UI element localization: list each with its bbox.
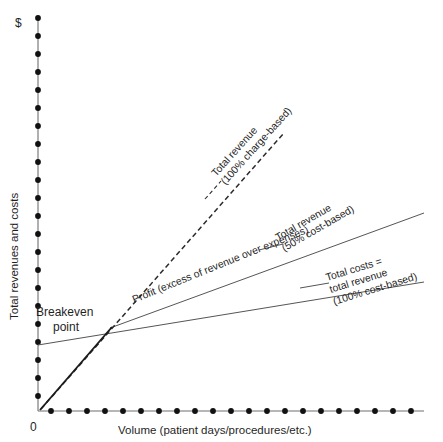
x-axis-title: Volume (patient days/procedures/etc.): [118, 424, 312, 436]
leader-line-charge-based: [205, 181, 221, 199]
series-label-total-revenue-50-cost-based: Total revenue (50% cost-based): [274, 192, 356, 253]
x-axis-tick-dots: [48, 408, 414, 414]
breakeven-chart: $ 0 Total revenues and costs Volume (pat…: [0, 0, 443, 442]
charge-based-label-line2: (100% charge-based): [219, 105, 294, 187]
breakeven-point-annotation: Breakeven point: [36, 305, 93, 334]
breakeven-label-line2: point: [53, 320, 80, 334]
y-axis: [35, 15, 41, 411]
series-label-total-costs-100-cost-based: Total costs = total revenue (100% cost-b…: [324, 247, 418, 307]
y-axis-unit-label: $: [15, 16, 22, 30]
series-label-total-revenue-100-charge-based: Total revenue (100% charge-based): [209, 97, 293, 187]
y-axis-title: Total revenues and costs: [8, 193, 20, 320]
x-axis: [38, 408, 424, 414]
breakeven-label-line1: Breakeven: [36, 305, 93, 319]
chart-canvas: $ 0 Total revenues and costs Volume (pat…: [0, 0, 443, 442]
origin-label: 0: [30, 420, 37, 434]
series-line-total-costs: [40, 327, 112, 410]
leader-line-100-cost-based: [300, 283, 329, 288]
